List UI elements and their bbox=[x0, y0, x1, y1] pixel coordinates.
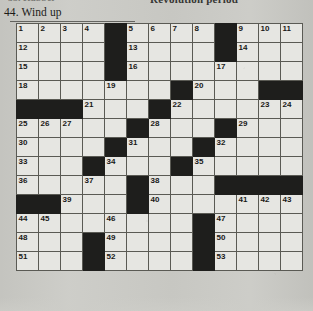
crossword-grid-container[interactable]: 1234567891011121314151617181920212223242… bbox=[16, 23, 303, 271]
crossword-cell[interactable]: 46 bbox=[105, 214, 127, 233]
crossword-cell[interactable] bbox=[127, 100, 149, 119]
crossword-cell[interactable] bbox=[83, 62, 105, 81]
crossword-cell[interactable]: 27 bbox=[61, 119, 83, 138]
crossword-cell[interactable]: 44 bbox=[17, 214, 39, 233]
crossword-cell[interactable] bbox=[83, 138, 105, 157]
crossword-cell[interactable]: 41 bbox=[237, 195, 259, 214]
crossword-cell[interactable] bbox=[39, 157, 61, 176]
crossword-cell[interactable] bbox=[171, 119, 193, 138]
crossword-cell[interactable] bbox=[61, 43, 83, 62]
crossword-cell[interactable] bbox=[281, 119, 303, 138]
crossword-cell[interactable] bbox=[281, 252, 303, 271]
crossword-cell[interactable]: 16 bbox=[127, 62, 149, 81]
crossword-cell[interactable] bbox=[215, 157, 237, 176]
crossword-cell[interactable] bbox=[61, 233, 83, 252]
crossword-cell[interactable] bbox=[171, 138, 193, 157]
crossword-cell[interactable] bbox=[171, 214, 193, 233]
crossword-cell[interactable] bbox=[237, 252, 259, 271]
crossword-cell[interactable] bbox=[193, 119, 215, 138]
crossword-cell[interactable]: 26 bbox=[39, 119, 61, 138]
crossword-cell[interactable] bbox=[237, 138, 259, 157]
crossword-cell[interactable] bbox=[259, 119, 281, 138]
crossword-cell[interactable] bbox=[83, 43, 105, 62]
crossword-cell[interactable]: 43 bbox=[281, 195, 303, 214]
crossword-cell[interactable] bbox=[83, 195, 105, 214]
crossword-cell[interactable] bbox=[259, 62, 281, 81]
crossword-cell[interactable]: 50 bbox=[215, 233, 237, 252]
crossword-cell[interactable] bbox=[259, 214, 281, 233]
crossword-cell[interactable] bbox=[39, 252, 61, 271]
crossword-cell[interactable]: 42 bbox=[259, 195, 281, 214]
crossword-cell[interactable]: 25 bbox=[17, 119, 39, 138]
crossword-cell[interactable]: 1 bbox=[17, 24, 39, 43]
crossword-grid[interactable]: 1234567891011121314151617181920212223242… bbox=[16, 23, 303, 271]
crossword-cell[interactable] bbox=[171, 252, 193, 271]
crossword-cell[interactable] bbox=[149, 138, 171, 157]
crossword-cell[interactable]: 4 bbox=[83, 24, 105, 43]
crossword-cell[interactable] bbox=[149, 81, 171, 100]
crossword-cell[interactable] bbox=[39, 81, 61, 100]
crossword-cell[interactable]: 47 bbox=[215, 214, 237, 233]
crossword-cell[interactable]: 11 bbox=[281, 24, 303, 43]
crossword-cell[interactable] bbox=[83, 81, 105, 100]
crossword-cell[interactable]: 34 bbox=[105, 157, 127, 176]
crossword-cell[interactable] bbox=[281, 157, 303, 176]
crossword-cell[interactable] bbox=[215, 100, 237, 119]
crossword-cell[interactable] bbox=[149, 157, 171, 176]
crossword-cell[interactable]: 29 bbox=[237, 119, 259, 138]
crossword-cell[interactable]: 12 bbox=[17, 43, 39, 62]
crossword-cell[interactable] bbox=[149, 62, 171, 81]
crossword-cell[interactable] bbox=[193, 62, 215, 81]
crossword-cell[interactable] bbox=[237, 100, 259, 119]
crossword-cell[interactable] bbox=[149, 233, 171, 252]
crossword-cell[interactable] bbox=[237, 81, 259, 100]
crossword-cell[interactable]: 3 bbox=[61, 24, 83, 43]
crossword-cell[interactable]: 49 bbox=[105, 233, 127, 252]
crossword-cell[interactable] bbox=[127, 252, 149, 271]
crossword-cell[interactable]: 8 bbox=[193, 24, 215, 43]
crossword-cell[interactable]: 45 bbox=[39, 214, 61, 233]
crossword-cell[interactable] bbox=[281, 62, 303, 81]
crossword-cell[interactable]: 17 bbox=[215, 62, 237, 81]
crossword-cell[interactable]: 2 bbox=[39, 24, 61, 43]
crossword-cell[interactable] bbox=[39, 43, 61, 62]
crossword-cell[interactable] bbox=[149, 214, 171, 233]
crossword-cell[interactable] bbox=[259, 138, 281, 157]
crossword-cell[interactable] bbox=[171, 43, 193, 62]
crossword-cell[interactable] bbox=[193, 43, 215, 62]
crossword-cell[interactable]: 30 bbox=[17, 138, 39, 157]
crossword-cell[interactable] bbox=[259, 233, 281, 252]
crossword-cell[interactable] bbox=[149, 43, 171, 62]
crossword-cell[interactable] bbox=[39, 176, 61, 195]
crossword-cell[interactable]: 6 bbox=[149, 24, 171, 43]
crossword-cell[interactable] bbox=[281, 138, 303, 157]
crossword-cell[interactable] bbox=[61, 138, 83, 157]
crossword-cell[interactable]: 37 bbox=[83, 176, 105, 195]
crossword-cell[interactable] bbox=[39, 138, 61, 157]
crossword-cell[interactable]: 22 bbox=[171, 100, 193, 119]
crossword-cell[interactable] bbox=[127, 214, 149, 233]
crossword-cell[interactable]: 10 bbox=[259, 24, 281, 43]
crossword-cell[interactable] bbox=[83, 119, 105, 138]
crossword-cell[interactable] bbox=[61, 62, 83, 81]
crossword-cell[interactable] bbox=[281, 233, 303, 252]
crossword-cell[interactable]: 9 bbox=[237, 24, 259, 43]
crossword-cell[interactable] bbox=[171, 195, 193, 214]
crossword-cell[interactable] bbox=[61, 214, 83, 233]
crossword-cell[interactable]: 13 bbox=[127, 43, 149, 62]
crossword-cell[interactable] bbox=[83, 214, 105, 233]
crossword-cell[interactable] bbox=[105, 195, 127, 214]
crossword-cell[interactable] bbox=[237, 214, 259, 233]
crossword-cell[interactable] bbox=[105, 176, 127, 195]
crossword-cell[interactable] bbox=[259, 252, 281, 271]
crossword-cell[interactable]: 51 bbox=[17, 252, 39, 271]
crossword-cell[interactable] bbox=[281, 214, 303, 233]
crossword-cell[interactable] bbox=[127, 233, 149, 252]
crossword-cell[interactable] bbox=[61, 252, 83, 271]
crossword-cell[interactable] bbox=[281, 43, 303, 62]
crossword-cell[interactable] bbox=[39, 233, 61, 252]
crossword-cell[interactable]: 7 bbox=[171, 24, 193, 43]
crossword-cell[interactable] bbox=[215, 81, 237, 100]
crossword-cell[interactable]: 31 bbox=[127, 138, 149, 157]
crossword-cell[interactable] bbox=[61, 81, 83, 100]
